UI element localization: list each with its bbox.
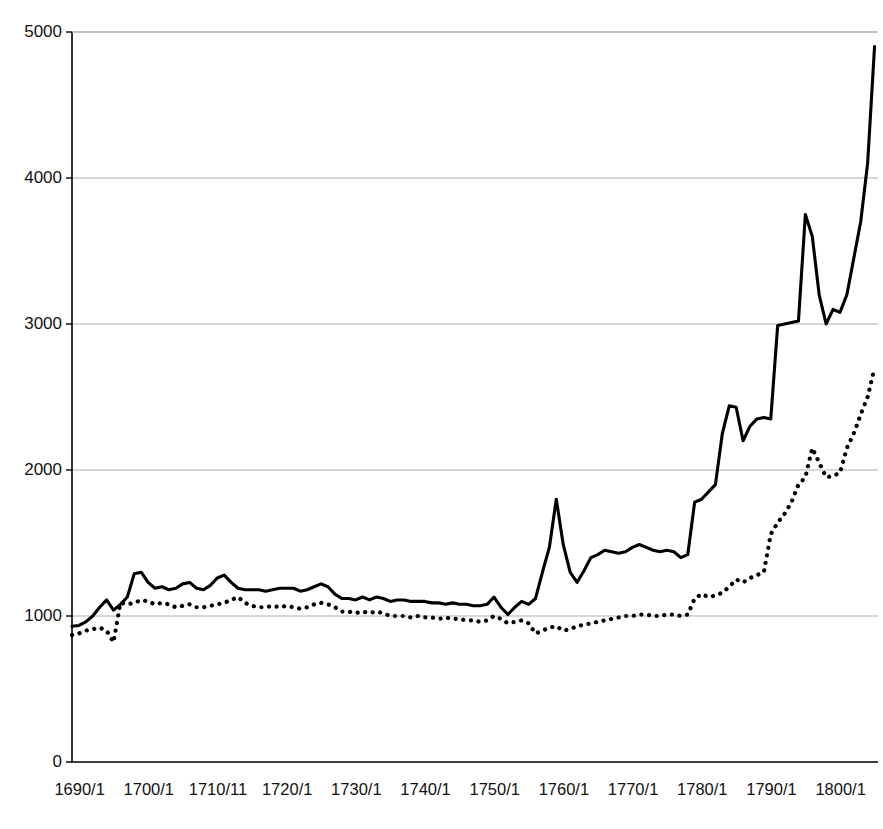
chart-plot-area — [0, 0, 883, 829]
line-chart-svg — [0, 0, 883, 829]
axis-frame — [72, 32, 878, 762]
chart-page: 010002000300040005000 1690/11700/11710/1… — [0, 0, 883, 829]
series-line-2 — [72, 368, 875, 642]
series-line-1 — [72, 47, 875, 627]
